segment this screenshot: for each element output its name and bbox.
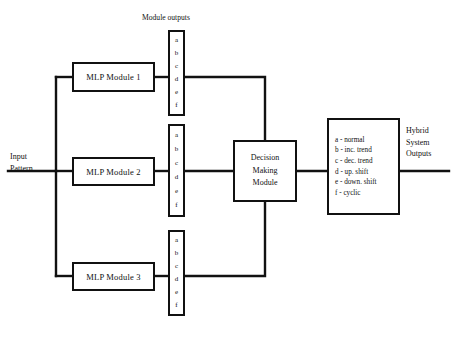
output-label-line2: System: [406, 137, 431, 149]
decision-label-line1: Decision: [251, 152, 279, 164]
legend-item-a: a - normal: [335, 135, 365, 146]
output-letter-a: a: [175, 132, 178, 139]
output-letter-e: e: [175, 188, 178, 195]
block-diagram: Module outputs Input Pattern MLP Module …: [0, 0, 452, 338]
mlp-module-2-label: MLP Module 2: [86, 167, 141, 177]
output-letter-f: f: [175, 102, 177, 109]
output-letter-d: d: [175, 276, 179, 283]
output-letter-d: d: [175, 174, 179, 181]
output-letter-e: e: [175, 289, 178, 296]
input-label-line1: Input: [10, 151, 33, 163]
output-legend-box: a - normal b - inc. trend c - dec. trend…: [327, 118, 400, 215]
legend-item-e: e - down. shift: [335, 177, 377, 188]
output-letter-b: b: [175, 250, 179, 257]
input-label-line2: Pattern: [10, 163, 33, 175]
output-letter-a: a: [175, 237, 178, 244]
decision-making-module-box[interactable]: Decision Making Module: [233, 140, 297, 202]
diagram-title: Module outputs: [142, 12, 190, 23]
output-letter-b: b: [175, 50, 179, 57]
output-letter-f: f: [175, 302, 177, 309]
output-letter-c: c: [175, 160, 178, 167]
decision-label-line2: Making: [253, 165, 278, 177]
output-letter-c: c: [175, 263, 178, 270]
output-letter-d: d: [175, 76, 179, 83]
output-letter-f: f: [175, 202, 177, 209]
mlp-module-1-label: MLP Module 1: [86, 72, 141, 82]
module-1-outputs-column: a b c d e f: [168, 30, 185, 116]
legend-item-d: d - up. shift: [335, 167, 368, 178]
output-label-line1: Hybrid: [406, 125, 431, 137]
legend-item-f: f - cyclic: [335, 188, 361, 199]
letters-1-to-decision: [184, 77, 265, 140]
mlp-module-1-box[interactable]: MLP Module 1: [72, 62, 155, 92]
mlp-module-3-box[interactable]: MLP Module 3: [72, 262, 155, 291]
output-letter-c: c: [175, 63, 178, 70]
legend-item-c: c - dec. trend: [335, 156, 373, 167]
module-2-outputs-column: a b c d e f: [168, 124, 185, 217]
output-letter-a: a: [175, 37, 178, 44]
input-pattern-label: Input Pattern: [10, 151, 33, 174]
output-letter-b: b: [175, 146, 179, 153]
module-3-outputs-column: a b c d e f: [168, 230, 185, 316]
mlp-module-2-box[interactable]: MLP Module 2: [72, 157, 155, 186]
output-label-line3: Outputs: [406, 148, 431, 160]
hybrid-system-outputs-label: Hybrid System Outputs: [406, 125, 431, 160]
legend-item-b: b - inc. trend: [335, 145, 372, 156]
mlp-module-3-label: MLP Module 3: [86, 272, 141, 282]
output-letter-e: e: [175, 89, 178, 96]
letters-3-to-decision: [184, 202, 265, 276]
decision-label-line3: Module: [253, 177, 278, 189]
